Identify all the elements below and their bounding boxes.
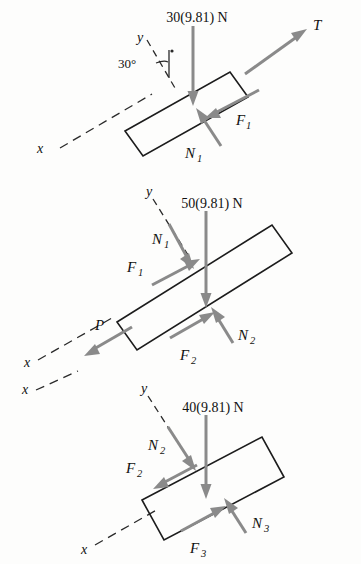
friction-1-label-2: F 1 [126,259,143,278]
svg-text:3: 3 [200,548,206,559]
svg-text:F: F [189,540,200,556]
normal-2-label-2: N 2 [237,327,256,346]
svg-text:N: N [151,231,163,247]
diagram-block-3: x x y 40(9.81) N N 2 F 2 [21,371,284,559]
reference-dot-1 [170,49,173,52]
weight-vector-1 [188,26,199,106]
x-axis-label-2: x [23,355,31,370]
friction-2-label-3: F 2 [125,460,143,479]
weight-label-1: 30(9.81) N [166,10,227,26]
friction-3-vector-3 [181,506,226,531]
block-outline-1 [125,72,248,156]
tension-vector-1 [245,29,307,74]
tension-label: T [313,17,323,33]
x-axis-line-3-top [36,371,78,390]
x-axis-label-1: x [36,141,44,156]
free-body-diagram-figure: x y 30° 30(9.81) N T F [0,0,361,564]
normal-1-label-1: N 1 [184,145,202,164]
friction-3-label-3: F 3 [189,540,206,559]
svg-text:1: 1 [138,267,143,278]
svg-text:1: 1 [246,120,251,131]
svg-text:N: N [237,327,249,343]
weight-label-3: 40(9.81) N [182,400,243,416]
x-axis-label-3-top: x [21,382,29,397]
svg-text:N: N [147,437,159,453]
normal-1-label-2: N 1 [151,231,169,250]
angle-label-1: 30° [118,56,136,71]
weight-vector-3 [201,415,212,499]
svg-text:2: 2 [250,335,256,346]
normal-3-label-3: N 3 [251,515,269,534]
y-axis-label-3: y [139,381,148,396]
svg-text:2: 2 [191,355,197,366]
normal-2-vector-3 [168,427,196,471]
y-axis-label-2: y [144,184,153,199]
friction-1-vector-1 [205,90,259,118]
friction-1-vector-2 [152,259,200,285]
weight-label-2: 50(9.81) N [181,196,242,212]
friction-1-label-1: F 1 [235,112,251,131]
svg-text:F: F [126,259,137,275]
svg-text:N: N [251,515,263,531]
y-axis-label-1: y [135,30,144,45]
friction-2-label-2: F 2 [179,347,197,366]
svg-text:1: 1 [197,153,202,164]
x-axis-line-1 [60,94,152,148]
svg-text:1: 1 [164,239,169,250]
friction-2-vector-3 [153,465,197,489]
svg-text:F: F [235,112,246,128]
diagram-block-1: x y 30° 30(9.81) N T F [36,10,323,164]
angle-arc-1 [156,61,168,63]
svg-text:2: 2 [137,468,143,479]
figure-canvas: x y 30° 30(9.81) N T F [0,0,361,564]
applied-force-label: P [94,317,104,333]
weight-vector-2 [201,211,212,308]
y-axis-line-1 [147,40,175,88]
x-axis-label-3: x [80,542,88,557]
diagram-block-2: x y 50(9.81) N N 1 F 1 [23,184,292,370]
normal-2-label-3: N 2 [147,437,166,456]
applied-force-vector-2 [84,327,132,356]
svg-text:F: F [125,460,136,476]
svg-text:F: F [179,347,190,363]
svg-text:3: 3 [263,523,269,534]
svg-text:2: 2 [160,445,166,456]
svg-text:N: N [184,145,196,161]
